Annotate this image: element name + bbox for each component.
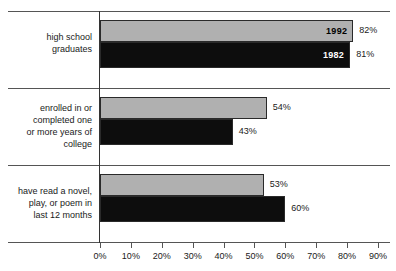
value-label-read-novel-1982: 60% [291,203,309,213]
series-tag-1982: 1982 [323,50,344,60]
category-label-line: or more years of [4,126,92,138]
bar-read-novel-1982 [100,196,285,222]
category-label-line: play, or poem in [4,197,92,209]
value-label-high-school-graduates-1982: 81% [356,49,374,59]
x-axis-tick-label: 60% [276,251,294,261]
bar-high-school-graduates-1982: 1982 [100,42,350,68]
bar-enrolled-college-1992 [100,97,267,119]
value-label-enrolled-college-1982: 43% [239,126,257,136]
bar-read-novel-1992 [100,174,264,196]
value-label-enrolled-college-1992: 54% [273,102,291,112]
x-axis-tick [100,243,101,248]
category-label-enrolled-college: enrolled in or completed one or more yea… [4,102,92,150]
x-axis-tick [162,243,163,248]
category-label-line: high school [4,31,92,43]
x-axis-tick-label: 10% [122,251,140,261]
category-label-read-novel: have read a novel, play, or poem in last… [4,185,92,221]
x-axis-tick [193,243,194,248]
x-axis-tick [378,243,379,248]
category-label-line: have read a novel, [4,185,92,197]
x-axis-tick-label: 70% [307,251,325,261]
x-axis-tick-label: 20% [153,251,171,261]
bar-chart: high school graduates enrolled in or com… [0,0,396,271]
group-separator-top [8,11,390,12]
x-axis-tick [285,243,286,248]
x-axis-tick-label: 80% [338,251,356,261]
category-label-line: last 12 months [4,209,92,221]
bar-enrolled-college-1982 [100,119,233,145]
bar-high-school-graduates-1992: 1992 [100,20,353,42]
category-label-line: college [4,138,92,150]
category-label-line: completed one [4,114,92,126]
x-axis-tick [254,243,255,248]
x-axis-tick [316,243,317,248]
group-separator-2 [8,165,390,166]
value-label-read-novel-1992: 53% [270,179,288,189]
x-axis-tick-label: 90% [369,251,387,261]
category-label-line: graduates [4,43,92,55]
x-axis-tick [131,243,132,248]
x-axis-tick-label: 0% [93,251,106,261]
x-axis-tick [347,243,348,248]
series-tag-1992: 1992 [326,26,347,36]
group-separator-1 [8,88,390,89]
x-axis-tick-label: 50% [245,251,263,261]
category-label-high-school-graduates: high school graduates [4,31,92,55]
value-label-high-school-graduates-1992: 82% [359,25,377,35]
x-axis-tick [224,243,225,248]
category-label-line: enrolled in or [4,102,92,114]
x-axis-tick-label: 30% [184,251,202,261]
x-axis-tick-label: 40% [215,251,233,261]
